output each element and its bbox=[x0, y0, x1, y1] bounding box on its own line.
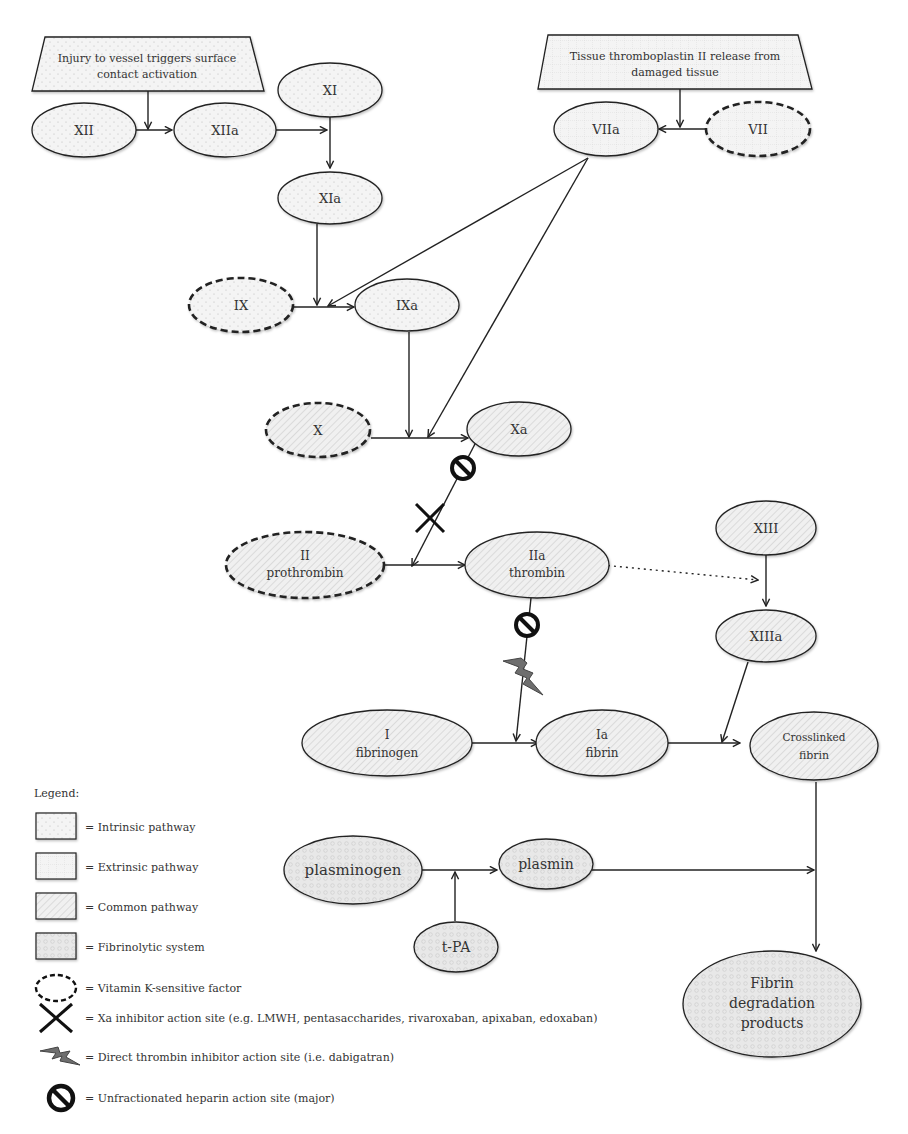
legend-item-direct-thrombin: = Direct thrombin inhibitor action site … bbox=[32, 1030, 394, 1083]
svg-text:= Common pathway: = Common pathway bbox=[85, 901, 199, 914]
node-fibrin-degradation-products: Fibrin degradation products bbox=[683, 951, 861, 1057]
svg-text:Ia: Ia bbox=[596, 728, 608, 742]
legend-item-heparin: = Unfractionated heparin action site (ma… bbox=[49, 1086, 335, 1110]
svg-text:VIIa: VIIa bbox=[591, 122, 620, 137]
node-XIIIa: XIIIa bbox=[716, 610, 816, 662]
svg-text:contact activation: contact activation bbox=[97, 68, 197, 81]
node-XIa: XIa bbox=[278, 172, 382, 224]
node-IXa: IXa bbox=[355, 279, 459, 331]
svg-text:IX: IX bbox=[234, 298, 249, 313]
svg-text:Crosslinked: Crosslinked bbox=[783, 731, 846, 743]
svg-text:XIa: XIa bbox=[319, 191, 341, 206]
node-VIIa: VIIa bbox=[554, 102, 658, 156]
legend-item-xa-inhibitor: = Xa inhibitor action site (e.g. LMWH, p… bbox=[40, 1004, 598, 1032]
legend-item-fibrinolytic: = Fibrinolytic system bbox=[36, 933, 205, 959]
svg-text:= Vitamin K-sensitive factor: = Vitamin K-sensitive factor bbox=[85, 982, 242, 995]
svg-text:II: II bbox=[300, 549, 310, 563]
svg-text:fibrinogen: fibrinogen bbox=[356, 746, 419, 760]
svg-text:= Fibrinolytic system: = Fibrinolytic system bbox=[85, 941, 205, 954]
node-I-fibrinogen: I fibrinogen bbox=[302, 710, 472, 776]
svg-text:degradation: degradation bbox=[729, 995, 815, 1011]
node-Xa: Xa bbox=[467, 402, 571, 456]
heparin-site-icon-thrombin bbox=[516, 614, 538, 636]
node-crosslinked-fibrin: Crosslinked fibrin bbox=[750, 712, 878, 780]
legend-title: Legend: bbox=[34, 787, 79, 800]
node-tPA: t-PA bbox=[414, 922, 498, 972]
svg-text:X: X bbox=[313, 423, 323, 438]
svg-text:Tissue thromboplastin II relea: Tissue thromboplastin II release from bbox=[570, 50, 781, 63]
legend-item-common: = Common pathway bbox=[36, 893, 199, 919]
svg-text:damaged tissue: damaged tissue bbox=[631, 66, 719, 79]
svg-text:fibrin: fibrin bbox=[799, 749, 829, 762]
svg-text:XIII: XIII bbox=[754, 521, 779, 536]
svg-text:I: I bbox=[385, 728, 390, 742]
svg-text:Xa: Xa bbox=[510, 422, 527, 437]
legend-item-intrinsic: = Intrinsic pathway bbox=[36, 813, 196, 839]
svg-text:= Intrinsic pathway: = Intrinsic pathway bbox=[85, 821, 196, 834]
node-XIII: XIII bbox=[716, 501, 816, 555]
node-XI: XI bbox=[278, 63, 382, 117]
node-VII: VII bbox=[706, 102, 810, 156]
svg-text:fibrin: fibrin bbox=[586, 746, 619, 760]
node-X: X bbox=[266, 403, 370, 457]
svg-text:IXa: IXa bbox=[396, 298, 418, 313]
node-Ia-fibrin: Ia fibrin bbox=[536, 710, 668, 776]
lightning-icon bbox=[32, 1030, 88, 1083]
svg-text:XII: XII bbox=[74, 123, 94, 138]
direct-thrombin-inhibitor-icon bbox=[503, 658, 543, 695]
svg-text:t-PA: t-PA bbox=[442, 939, 471, 955]
coagulation-cascade-diagram: Injury to vessel triggers surface contac… bbox=[0, 0, 908, 1134]
legend: Legend: = Intrinsic pathway = Extrinsic … bbox=[32, 787, 597, 1110]
extrinsic-trigger-box: Tissue thromboplastin II release from da… bbox=[538, 35, 812, 89]
node-IIa-thrombin: IIa thrombin bbox=[465, 532, 609, 598]
svg-text:prothrombin: prothrombin bbox=[267, 566, 344, 580]
svg-text:Fibrin: Fibrin bbox=[750, 975, 793, 991]
svg-text:= Extrinsic pathway: = Extrinsic pathway bbox=[85, 861, 199, 874]
svg-text:= Xa inhibitor action site (e.: = Xa inhibitor action site (e.g. LMWH, p… bbox=[85, 1012, 598, 1025]
svg-text:XIIIa: XIIIa bbox=[750, 629, 783, 644]
prohibition-icon bbox=[49, 1086, 73, 1110]
svg-text:IIa: IIa bbox=[529, 549, 546, 563]
node-II-prothrombin: II prothrombin bbox=[226, 532, 384, 598]
svg-text:XI: XI bbox=[323, 83, 337, 98]
intrinsic-trigger-box: Injury to vessel triggers surface contac… bbox=[32, 37, 264, 91]
svg-text:= Unfractionated heparin actio: = Unfractionated heparin action site (ma… bbox=[85, 1092, 335, 1105]
node-XIIa: XIIa bbox=[174, 103, 276, 157]
heparin-site-icon-xa bbox=[452, 457, 474, 479]
svg-text:VII: VII bbox=[747, 122, 768, 137]
node-IX: IX bbox=[189, 278, 293, 332]
x-mark-icon bbox=[40, 1004, 72, 1032]
legend-item-vitamin-k: = Vitamin K-sensitive factor bbox=[36, 975, 242, 1001]
node-XII: XII bbox=[32, 103, 136, 157]
svg-text:thrombin: thrombin bbox=[509, 566, 565, 580]
svg-text:= Direct thrombin inhibitor ac: = Direct thrombin inhibitor action site … bbox=[85, 1051, 394, 1064]
svg-text:XIIa: XIIa bbox=[211, 123, 239, 138]
edges bbox=[136, 89, 816, 951]
node-plasminogen: plasminogen bbox=[284, 836, 422, 904]
xa-inhibitor-icon bbox=[416, 504, 444, 532]
svg-text:products: products bbox=[741, 1015, 804, 1031]
svg-text:plasminogen: plasminogen bbox=[305, 861, 402, 879]
legend-item-extrinsic: = Extrinsic pathway bbox=[36, 853, 199, 879]
svg-text:Injury to vessel triggers surf: Injury to vessel triggers surface bbox=[58, 52, 236, 65]
dashed-ellipse-icon bbox=[36, 975, 76, 1001]
svg-text:plasmin: plasmin bbox=[518, 856, 574, 872]
node-plasmin: plasmin bbox=[499, 839, 593, 889]
